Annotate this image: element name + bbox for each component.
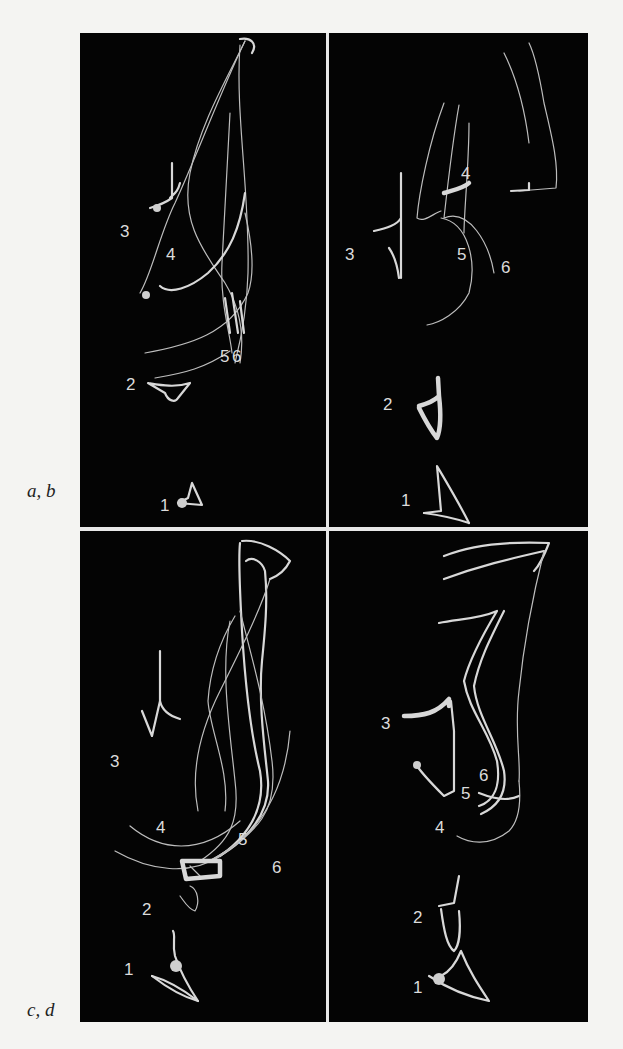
trace-label-c-2: 2: [142, 900, 151, 919]
trace-label-a-5: 5: [220, 347, 229, 366]
trace-label-a-6: 6: [232, 347, 241, 366]
trace-label-d-1: 1: [413, 978, 422, 997]
panel-a-traces: 3 4 5 6 2 1: [80, 33, 326, 527]
panel-c: 3 4 5 6 2 1: [80, 531, 326, 1022]
panel-b: 3 4 5 6 2 1: [329, 33, 588, 527]
trace-label-c-3: 3: [110, 752, 119, 771]
trace-label-b-4: 4: [461, 164, 470, 183]
panel-d-traces: 3 6 5 4 2 1: [329, 531, 588, 1022]
trace-label-c-4: 4: [156, 818, 165, 837]
trace-label-d-5: 5: [461, 784, 470, 803]
trace-label-c-6: 6: [272, 858, 281, 877]
trace-label-b-6: 6: [501, 258, 510, 277]
trace-label-a-2: 2: [126, 375, 135, 394]
panel-d: 3 6 5 4 2 1: [329, 531, 588, 1022]
trace-label-b-1: 1: [401, 491, 410, 510]
trace-label-d-2: 2: [413, 908, 422, 927]
trace-label-a-4: 4: [166, 245, 175, 264]
panel-divider-horizontal: [80, 527, 588, 531]
trace-label-d-4: 4: [435, 818, 444, 837]
trace-label-c-1: 1: [124, 960, 133, 979]
row-label-ab: a, b: [27, 480, 56, 502]
figure-grid: 3 4 5 6 2 1 3 4 5 6 2 1: [80, 33, 588, 1022]
trace-label-c-5: 5: [238, 830, 247, 849]
trace-label-a-3: 3: [120, 222, 129, 241]
trace-label-b-3: 3: [345, 245, 354, 264]
trace-label-d-6: 6: [479, 766, 488, 785]
row-label-cd: c, d: [27, 999, 54, 1021]
trace-label-d-3: 3: [381, 714, 390, 733]
panel-b-traces: 3 4 5 6 2 1: [329, 33, 588, 527]
trace-label-b-2: 2: [383, 395, 392, 414]
trace-label-b-5: 5: [457, 245, 466, 264]
panel-a: 3 4 5 6 2 1: [80, 33, 326, 527]
trace-label-a-1: 1: [160, 496, 169, 515]
panel-c-traces: 3 4 5 6 2 1: [80, 531, 326, 1022]
